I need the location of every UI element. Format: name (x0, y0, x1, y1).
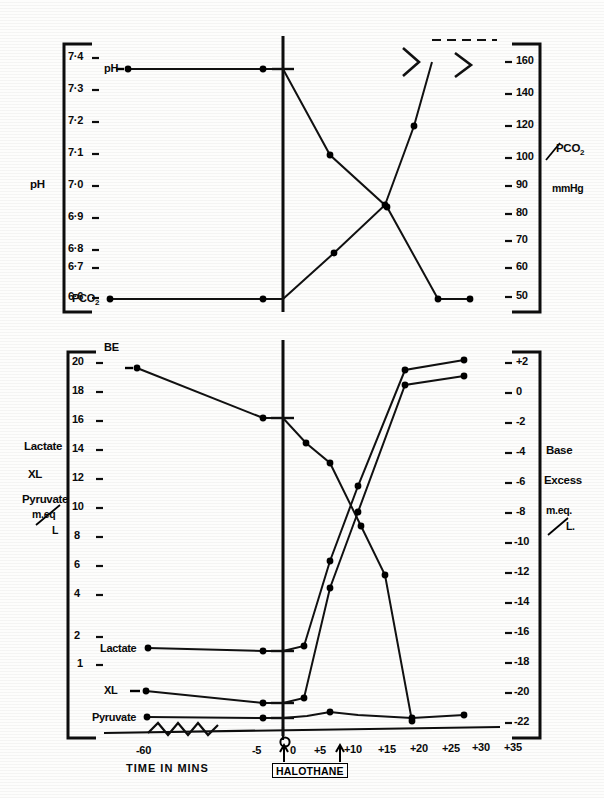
upper-right-tick-4: 90 (516, 178, 528, 190)
x-tick-3: +5 (314, 744, 326, 756)
x-tick-2: 0 (290, 744, 296, 756)
series-xl-line (146, 376, 464, 703)
lower-right-tick-6: -10 (514, 535, 529, 547)
upper-right-axis-name-sub: 2 (580, 148, 584, 157)
lower-right-tick-10: -18 (514, 655, 529, 667)
upper-right-tick-2: 120 (516, 118, 533, 130)
upper-left-tick-0: 7·4 (68, 50, 83, 62)
upper-left-tick-2: 7·2 (68, 114, 83, 126)
figure-root: 7·4 7·3 7·2 7·1 7·0 6·9 6·8 6·7 6·6 pH 1… (0, 0, 604, 798)
upper-right-axis-name: PCO2 (556, 142, 584, 157)
curve-label-xl: XL (104, 684, 117, 696)
x-tick-6: +20 (410, 742, 428, 754)
curve-label-lactate: Lactate (100, 642, 136, 654)
lower-left-tick-4: 12 (72, 471, 84, 483)
series-xl-points (143, 373, 468, 707)
lower-left-tick-5: 10 (72, 500, 84, 512)
lower-left-tick-3: 14 (72, 442, 84, 454)
lower-left-tick-7: 6 (74, 558, 80, 570)
lower-left-tick-6: 8 (74, 529, 80, 541)
lower-right-tick-12: -22 (514, 715, 529, 727)
lower-right-tick-5: -8 (516, 505, 525, 517)
upper-right-tick-8: 50 (516, 289, 528, 301)
x-tick-9: +35 (504, 741, 522, 753)
upper-left-tick-3: 7·1 (68, 146, 83, 158)
offscale-arrow-1 (403, 48, 419, 76)
lower-left-tick-0: 20 (72, 355, 84, 367)
x-tick-4: +10 (344, 743, 362, 755)
upper-right-tick-1: 140 (516, 86, 533, 98)
upper-right-axis-name-text: PCO (556, 142, 580, 154)
lower-left-axis-name-pyruvate: Pyruvate (22, 493, 68, 505)
upper-right-axis-unit: mmHg (552, 182, 583, 194)
lower-left-axis-unit-den: L (52, 524, 58, 536)
lower-left-axis-frame (68, 352, 96, 738)
offscale-arrow-2 (455, 53, 471, 77)
lower-right-tick-1: 0 (516, 385, 522, 397)
series-pyruvate-points (144, 709, 468, 722)
x-tick-7: +25 (442, 742, 460, 754)
series-ph-line (128, 69, 470, 299)
curve-label-pco2-text: PCO (72, 292, 95, 304)
upper-left-axis-name: pH (30, 178, 45, 190)
lower-right-ticks (505, 363, 512, 723)
curve-label-pco2: PCO2 (72, 292, 99, 307)
series-pyruvate-line (147, 712, 464, 718)
series-lactate-points (145, 357, 468, 655)
upper-left-tick-5: 6·9 (68, 210, 83, 222)
upper-right-ticks (505, 62, 512, 297)
lower-right-tick-11: -20 (514, 685, 529, 697)
halothane-end-arrow (336, 745, 344, 762)
series-pco2-line (110, 62, 432, 299)
lower-right-tick-3: -4 (516, 445, 525, 457)
upper-right-tick-7: 60 (516, 260, 528, 272)
curve-label-pco2-sub: 2 (95, 298, 99, 307)
upper-right-tick-0: 160 (516, 54, 533, 66)
upper-left-tick-6: 6·8 (68, 242, 83, 254)
lower-right-tick-2: -2 (516, 415, 525, 427)
chart-vector (0, 0, 604, 798)
series-pco2-points (107, 123, 418, 303)
halothane-event-box: HALOTHANE (272, 763, 348, 778)
lower-right-axis-unit-num: m.eq. (546, 504, 572, 516)
lower-left-axis-unit-num: m.eq (32, 508, 55, 520)
x-tick-0: -60 (136, 744, 151, 756)
upper-left-tick-7: 6·7 (68, 260, 83, 272)
x-tick-5: +15 (378, 743, 396, 755)
upper-left-tick-1: 7·3 (68, 82, 83, 94)
lower-left-axis-name-xl: XL (28, 468, 42, 480)
chart-canvas: 7·4 7·3 7·2 7·1 7·0 6·9 6·8 6·7 6·6 pH 1… (0, 0, 604, 798)
upper-right-tick-6: 70 (516, 233, 528, 245)
lower-left-axis-name-lactate: Lactate (24, 440, 62, 452)
lower-left-tick-10: 1 (77, 657, 83, 669)
x-axis-label: TIME IN MINS (126, 762, 209, 774)
upper-right-tick-5: 80 (516, 206, 528, 218)
lower-right-tick-7: -12 (514, 565, 529, 577)
halothane-start-arrow (280, 745, 288, 762)
lower-right-tick-0: +2 (516, 355, 528, 367)
x-tick-8: +30 (472, 741, 490, 753)
lower-left-tick-8: 4 (74, 587, 80, 599)
series-be-line (137, 368, 412, 721)
lower-right-axis-unit-den: L. (566, 520, 575, 532)
upper-left-ticks (92, 58, 99, 298)
right-unit-slash-lower (548, 518, 568, 535)
lower-left-ticks (96, 363, 103, 665)
lower-left-tick-1: 18 (72, 384, 84, 396)
lower-right-axis-name-excess: Excess (544, 474, 582, 486)
lower-right-axis-name-base: Base (546, 444, 572, 456)
upper-right-tick-3: 100 (516, 150, 533, 162)
lower-left-tick-9: 2 (74, 629, 80, 641)
upper-left-tick-4: 7·0 (68, 178, 83, 190)
curve-label-ph: pH (104, 62, 118, 74)
lower-right-tick-8: -14 (514, 595, 529, 607)
curve-label-pyruvate: Pyruvate (92, 711, 136, 723)
lower-left-tick-2: 16 (72, 413, 84, 425)
lower-right-tick-9: -16 (514, 625, 529, 637)
curve-label-be: BE (104, 341, 119, 353)
series-lactate-line (148, 360, 464, 651)
x-tick-1: -5 (252, 744, 261, 756)
lower-right-tick-4: -6 (516, 475, 525, 487)
